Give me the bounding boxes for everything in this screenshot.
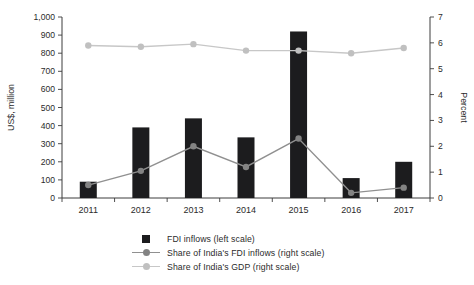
square-marker-icon xyxy=(142,235,150,243)
legend-item: Share of India's GDP (right scale) xyxy=(131,261,324,272)
left-axis-tick-label: 500 xyxy=(41,103,56,113)
x-axis-category-label: 2017 xyxy=(394,205,414,215)
legend-square-marker-icon xyxy=(131,235,161,243)
left-axis-tick-label: 400 xyxy=(41,121,56,131)
legend-item-label: Share of India's GDP (right scale) xyxy=(167,262,299,272)
left-axis-tick-label: 100 xyxy=(41,175,56,185)
marker-gdp-share-2013 xyxy=(190,41,196,47)
legend-item: Share of India's FDI inflows (right scal… xyxy=(131,247,324,258)
dot-marker-icon xyxy=(143,249,150,256)
left-axis-tick-label: 0 xyxy=(50,193,55,203)
right-axis-title: Percent xyxy=(459,92,469,123)
marker-fdi-share-2011 xyxy=(85,182,91,188)
left-axis-tick-label: 200 xyxy=(41,157,56,167)
legend-item-label: Share of India's FDI inflows (right scal… xyxy=(167,248,324,258)
left-axis-title: US$, million xyxy=(6,84,16,131)
left-axis-tick-label: 1,000 xyxy=(33,12,55,22)
x-axis-category-label: 2014 xyxy=(236,205,256,215)
right-axis-tick-label: 5 xyxy=(438,64,443,74)
bar-2015 xyxy=(290,31,307,198)
right-axis-tick-label: 1 xyxy=(438,167,443,177)
x-axis-category-label: 2011 xyxy=(79,205,98,215)
right-axis-tick-label: 2 xyxy=(438,141,443,151)
x-axis-category-label: 2015 xyxy=(289,205,309,215)
left-axis-tick-label: 800 xyxy=(41,48,56,58)
marker-fdi-share-2016 xyxy=(348,190,354,196)
bar-2012 xyxy=(132,127,149,198)
marker-fdi-share-2017 xyxy=(401,184,407,190)
right-axis-tick-label: 7 xyxy=(438,12,443,22)
right-axis-tick-label: 6 xyxy=(438,38,443,48)
x-axis-category-label: 2016 xyxy=(341,205,361,215)
bar-2017 xyxy=(395,162,412,198)
legend-item: FDI inflows (left scale) xyxy=(131,233,324,244)
marker-gdp-share-2016 xyxy=(348,50,354,56)
legend-line-dot-marker-icon xyxy=(131,263,161,270)
left-axis-tick-label: 600 xyxy=(41,84,56,94)
marker-fdi-share-2014 xyxy=(243,164,249,170)
marker-fdi-share-2013 xyxy=(190,143,196,149)
right-axis-tick-label: 0 xyxy=(438,193,443,203)
legend-item-label: FDI inflows (left scale) xyxy=(167,234,255,244)
left-axis-tick-label: 700 xyxy=(41,66,56,76)
x-axis-category-label: 2012 xyxy=(131,205,151,215)
marker-fdi-share-2012 xyxy=(138,168,144,174)
marker-fdi-share-2015 xyxy=(295,135,301,141)
x-axis-category-label: 2013 xyxy=(183,205,203,215)
marker-gdp-share-2017 xyxy=(401,45,407,51)
legend-line-dot-marker-icon xyxy=(131,249,161,256)
marker-gdp-share-2011 xyxy=(85,42,91,48)
marker-gdp-share-2015 xyxy=(295,47,301,53)
marker-gdp-share-2012 xyxy=(138,44,144,50)
right-axis-tick-label: 4 xyxy=(438,90,443,100)
left-axis-tick-label: 900 xyxy=(41,30,56,40)
dot-marker-icon xyxy=(143,263,150,270)
bar-2013 xyxy=(185,118,202,198)
left-axis-tick-label: 300 xyxy=(41,139,56,149)
chart-legend: FDI inflows (left scale)Share of India's… xyxy=(131,233,324,272)
chart-figure: 01002003004005006007008009001,0000123456… xyxy=(0,0,474,285)
right-axis-tick-label: 3 xyxy=(438,115,443,125)
marker-gdp-share-2014 xyxy=(243,47,249,53)
